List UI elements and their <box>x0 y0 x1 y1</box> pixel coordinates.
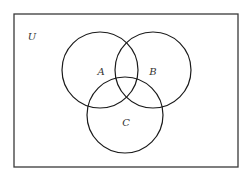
venn-diagram: U A B C <box>0 0 249 178</box>
set-c-label: C <box>122 117 130 128</box>
set-b-label: B <box>148 66 156 77</box>
universe-rectangle <box>14 14 238 167</box>
set-a-label: A <box>96 66 104 77</box>
universe-label: U <box>28 31 37 42</box>
set-c-circle <box>87 77 163 153</box>
